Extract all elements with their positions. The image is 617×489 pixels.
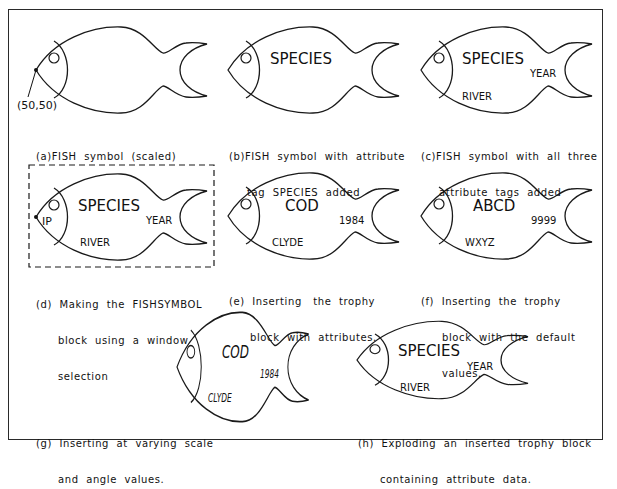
attribute-tag-year: YEAR — [145, 215, 172, 226]
fish-symbol — [228, 27, 399, 113]
insertion-point-marker — [34, 215, 38, 219]
attribute-value-river: WXYZ — [465, 237, 495, 248]
caption-line: containing attribute data. — [358, 474, 592, 486]
caption-d: (d) Making the FISHSYMBOL block using a … — [36, 275, 202, 395]
attribute-tag-year: YEAR — [529, 68, 556, 79]
caption-b: (b)FISH symbol with attribute tag SPECIE… — [229, 127, 405, 211]
leader-line — [28, 70, 36, 97]
attribute-tag-species: SPECIES — [270, 50, 332, 68]
attribute-tag-species: SPECIES — [78, 197, 140, 215]
panel-a: (50,50) — [17, 27, 207, 113]
caption-line: (d) Making the FISHSYMBOL — [36, 299, 202, 311]
attribute-tag-river: RIVER — [80, 237, 110, 248]
caption-line: (a)FISH symbol (scaled) — [36, 151, 176, 163]
caption-c: (c)FISH symbol with all three attribute … — [421, 127, 598, 211]
caption-g: (g) Inserting at varying scale and angle… — [36, 414, 213, 489]
caption-f: (f) Inserting the trophy block with the … — [421, 272, 575, 392]
fish-symbol — [421, 27, 592, 113]
caption-line: attribute tags added — [421, 187, 598, 199]
attribute-value-year: 9999 — [531, 215, 556, 226]
insertion-point-label: IP — [42, 215, 52, 228]
caption-line: block using a window — [36, 335, 202, 347]
caption-line: values. — [421, 368, 575, 380]
caption-line: (g) Inserting at varying scale — [36, 438, 213, 450]
attribute-value-year: 1984 — [339, 215, 364, 226]
caption-a: (a)FISH symbol (scaled) — [36, 127, 176, 175]
point-label: (50,50) — [17, 99, 57, 112]
panel-c: SPECIES YEAR RIVER — [421, 27, 592, 113]
attribute-value-river: CLYDE — [272, 237, 303, 248]
caption-line: (c)FISH symbol with all three — [421, 151, 598, 163]
fish-symbol — [36, 27, 207, 113]
caption-line: (e) Inserting the trophy — [229, 296, 377, 308]
caption-line: block with the default — [421, 332, 575, 344]
attribute-value-river: CLYDE — [208, 390, 232, 405]
panel-d: IP SPECIES YEAR RIVER — [29, 165, 214, 267]
caption-line: (f) Inserting the trophy — [421, 296, 575, 308]
caption-line: and angle values. — [36, 474, 213, 486]
attribute-value-year: 1984 — [260, 366, 279, 381]
attribute-tag-species: SPECIES — [462, 50, 524, 68]
caption-line: (h) Exploding an inserted trophy block — [358, 438, 592, 450]
caption-line: selection — [36, 371, 202, 383]
caption-line: block with attributes. — [229, 332, 377, 344]
caption-line: tag SPECIES added — [229, 187, 405, 199]
panel-b: SPECIES — [228, 27, 399, 113]
window-selection-box — [29, 165, 214, 267]
fish-symbol — [36, 174, 207, 260]
caption-line: (b)FISH symbol with attribute — [229, 151, 405, 163]
caption-e: (e) Inserting the trophy block with attr… — [229, 272, 377, 356]
attribute-tag-river: RIVER — [462, 91, 492, 102]
caption-h: (h) Exploding an inserted trophy block c… — [358, 414, 592, 489]
